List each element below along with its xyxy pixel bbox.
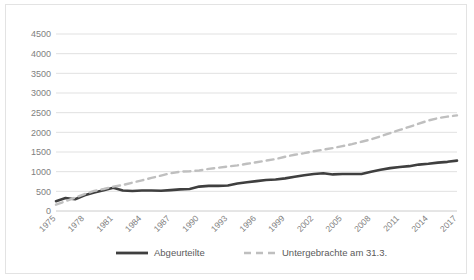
chart-figure: 050010001500200025003000350040004500 197…: [5, 4, 467, 274]
y-tick-label: 2500: [31, 108, 51, 118]
chart-legend: AbgeurteilteUntergebrachte am 31.3.: [116, 247, 387, 258]
x-tick-label: 2008: [352, 213, 373, 234]
y-tick-label: 3500: [31, 69, 51, 79]
y-tick-label: 3000: [31, 88, 51, 98]
x-axis-ticks-group: 1975197819811984198719901993199619992002…: [37, 213, 459, 234]
x-tick-label: 1996: [237, 213, 258, 234]
x-tick-label: 2002: [295, 213, 316, 234]
x-tick-label: 2011: [381, 213, 401, 233]
legend-label-untergebrachte: Untergebrachte am 31.3.: [282, 247, 387, 258]
x-tick-label: 1981: [94, 213, 115, 234]
y-tick-label: 1000: [31, 167, 51, 177]
x-tick-label: 1999: [266, 213, 287, 234]
y-tick-label: 500: [36, 187, 51, 197]
line-chart: 050010001500200025003000350040004500 197…: [6, 5, 468, 275]
x-tick-label: 2014: [409, 213, 430, 234]
x-tick-label: 1984: [123, 213, 144, 234]
y-tick-label: 4000: [31, 49, 51, 59]
x-tick-label: 1987: [152, 213, 173, 234]
y-axis-ticks-group: 050010001500200025003000350040004500: [31, 29, 51, 216]
x-tick-label: 1990: [180, 213, 201, 234]
x-tick-label: 1993: [209, 213, 230, 234]
x-tick-label: 2005: [323, 213, 344, 234]
gridlines-group: [56, 34, 457, 211]
x-tick-label: 1975: [37, 213, 58, 234]
legend-label-abgeurteilte: Abgeurteilte: [154, 247, 205, 258]
x-tick-label: 1978: [66, 213, 87, 234]
y-tick-label: 4500: [31, 29, 51, 39]
chart-plot-area: 050010001500200025003000350040004500 197…: [6, 5, 468, 275]
y-tick-label: 1500: [31, 147, 51, 157]
x-tick-label: 2017: [438, 213, 459, 234]
y-tick-label: 2000: [31, 128, 51, 138]
series-line-abgeurteilte: [56, 161, 457, 202]
